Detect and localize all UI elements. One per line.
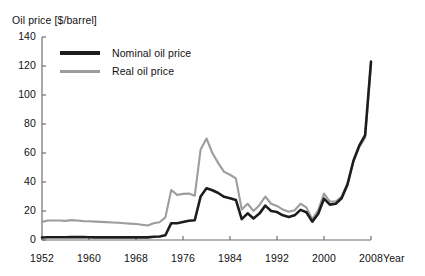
series-line-nominal <box>42 62 371 238</box>
legend-swatch-nominal <box>60 51 100 55</box>
legend-label: Nominal oil price <box>112 47 191 59</box>
legend-swatch-real <box>60 70 100 73</box>
chart-legend: Nominal oil priceReal oil price <box>60 44 191 80</box>
oil-price-chart: Oil price [$/barrel] Year 02040608010012… <box>0 0 425 276</box>
legend-item: Nominal oil price <box>60 44 191 62</box>
series-line-real <box>42 63 371 225</box>
plot-area <box>0 0 425 276</box>
legend-item: Real oil price <box>60 62 191 80</box>
legend-label: Real oil price <box>112 65 174 77</box>
